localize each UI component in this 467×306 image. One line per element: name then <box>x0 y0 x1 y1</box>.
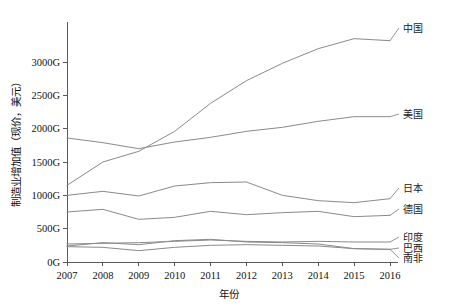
x-tick-label: 2010 <box>164 270 185 281</box>
series-line <box>67 245 390 251</box>
series-line <box>67 182 390 203</box>
series-label-日本: 日本 <box>403 182 423 194</box>
series-label-美国: 美国 <box>403 108 423 120</box>
y-tick-label: 1500G <box>31 157 60 168</box>
x-axis-title: 年份 <box>219 288 240 300</box>
series-line <box>67 209 390 219</box>
series-label-南非: 南非 <box>403 252 423 264</box>
series-label-中国: 中国 <box>403 22 423 34</box>
series-label-德国: 德国 <box>403 203 423 215</box>
x-tick-label: 2013 <box>272 270 293 281</box>
series-line <box>67 117 390 149</box>
x-tick-label: 2007 <box>57 270 78 281</box>
chart-canvas: 0G500G1000G1500G2000G2500G3000G 20072008… <box>0 0 467 306</box>
series-leader-line <box>390 249 399 258</box>
x-tick-label: 2011 <box>200 270 221 281</box>
series-leader-line <box>390 188 399 199</box>
y-tick-label: 2500G <box>31 90 60 101</box>
line-chart: 0G500G1000G1500G2000G2500G3000G 20072008… <box>0 0 467 306</box>
y-tick-label: 2000G <box>31 123 60 134</box>
y-tick-label: 3000G <box>31 57 60 68</box>
x-tick-label: 2015 <box>344 270 365 281</box>
y-tick-group: 0G500G1000G1500G2000G2500G3000G <box>31 57 67 268</box>
x-tick-label: 2009 <box>128 270 149 281</box>
series-line <box>67 39 390 186</box>
series-leader-group <box>390 28 399 258</box>
series-leader-line <box>390 209 399 215</box>
series-label-印度: 印度 <box>403 231 423 243</box>
axes-group <box>67 22 398 262</box>
y-tick-label: 1000G <box>31 190 60 201</box>
x-tick-label: 2008 <box>92 270 113 281</box>
x-tick-label: 2014 <box>308 270 330 281</box>
series-leader-line <box>390 237 399 242</box>
series-leader-line <box>390 114 399 117</box>
y-tick-label: 500G <box>37 223 61 234</box>
x-tick-label: 2016 <box>380 270 401 281</box>
x-tick-label: 2012 <box>236 270 257 281</box>
series-leader-line <box>390 248 399 249</box>
series-leader-line <box>390 28 399 41</box>
x-tick-group: 2007200820092010201120122013201420152016 <box>57 262 401 281</box>
y-axis-title: 制造业增加值（现价，美元） <box>10 77 22 207</box>
series-label-group: 中国美国日本德国印度巴西南非 <box>403 22 423 264</box>
series-group <box>67 39 390 251</box>
y-tick-label: 0G <box>47 257 60 268</box>
